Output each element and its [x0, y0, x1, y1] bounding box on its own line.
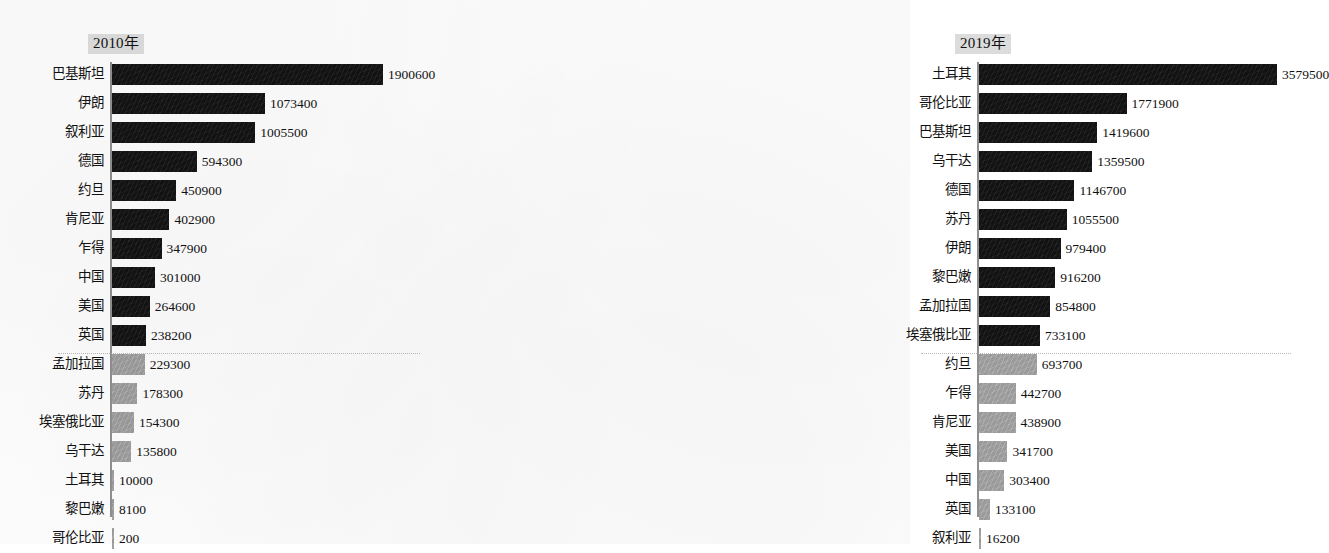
- bar-track: 1073400: [112, 93, 449, 114]
- bar-row: 巴基斯坦1900600: [0, 62, 455, 91]
- bar-row: 德国1146700: [455, 178, 910, 207]
- bar-track: 450900: [112, 180, 449, 201]
- bar-track: 229300: [112, 354, 449, 375]
- bar-row: 苏丹1055500: [455, 207, 910, 236]
- category-label: 土耳其: [0, 468, 104, 497]
- bar-track: 1900600: [112, 64, 449, 85]
- bar-value-label: 178300: [137, 383, 183, 404]
- bar-value-label: 438900: [1016, 412, 1062, 433]
- bar: [979, 499, 990, 520]
- category-label: 中国: [859, 468, 971, 497]
- bar-track: 264600: [112, 296, 449, 317]
- bar-value-label: 1055500: [1067, 209, 1119, 230]
- category-label: 乍得: [0, 236, 104, 265]
- bar-row: 英国133100: [455, 497, 910, 526]
- category-label: 土耳其: [859, 62, 971, 91]
- bar: [112, 354, 145, 375]
- bar-row: 土耳其3579500: [455, 62, 910, 91]
- bar-value-label: 8100: [114, 499, 146, 520]
- bar-rows-right: 土耳其3579500哥伦比亚1771900巴基斯坦1419600乌干达13595…: [455, 62, 910, 553]
- bar-value-label: 301000: [155, 267, 201, 288]
- bar-value-label: 1005500: [255, 122, 307, 143]
- bar-track: 347900: [112, 238, 449, 259]
- bar-row: 约旦450900: [0, 178, 455, 207]
- category-label: 中国: [0, 265, 104, 294]
- bar: [979, 267, 1055, 288]
- bar-value-label: 135800: [131, 441, 177, 462]
- category-label: 哥伦比亚: [859, 91, 971, 120]
- bar-value-label: 450900: [176, 180, 222, 201]
- category-label: 巴基斯坦: [859, 120, 971, 149]
- bar-row: 德国594300: [0, 149, 455, 178]
- category-label: 乍得: [859, 381, 971, 410]
- bar: [979, 238, 1061, 259]
- category-label: 埃塞俄比亚: [859, 323, 971, 352]
- bar-track: 8100: [112, 499, 449, 520]
- group-separator-left: [58, 353, 420, 354]
- category-label: 约旦: [0, 178, 104, 207]
- bar-value-label: 347900: [162, 238, 208, 259]
- category-label: 孟加拉国: [859, 294, 971, 323]
- bar: [979, 209, 1067, 230]
- bar-row: 叙利亚1005500: [0, 120, 455, 149]
- category-label: 孟加拉国: [0, 352, 104, 381]
- bar: [112, 64, 383, 85]
- bar-row: 乌干达1359500: [455, 149, 910, 178]
- bar-track: 10000: [112, 470, 449, 491]
- panel-title-2010: 2010年: [88, 34, 144, 54]
- bar-row: 黎巴嫩916200: [455, 265, 910, 294]
- bar-value-label: 1900600: [383, 64, 435, 85]
- bar-value-label: 229300: [145, 354, 191, 375]
- bar-value-label: 854800: [1050, 296, 1096, 317]
- bar: [112, 441, 131, 462]
- category-label: 黎巴嫩: [859, 265, 971, 294]
- bar-row: 乌干达135800: [0, 439, 455, 468]
- category-label: 伊朗: [0, 91, 104, 120]
- bar-track: 154300: [112, 412, 449, 433]
- bar-row: 哥伦比亚1771900: [455, 91, 910, 120]
- bar: [979, 470, 1004, 491]
- bar-value-label: 1771900: [1127, 93, 1179, 114]
- bar-value-label: 341700: [1007, 441, 1053, 462]
- bar-track: 178300: [112, 383, 449, 404]
- bar: [112, 238, 162, 259]
- bar-value-label: 916200: [1055, 267, 1101, 288]
- category-label: 苏丹: [859, 207, 971, 236]
- bar-row: 埃塞俄比亚154300: [0, 410, 455, 439]
- bar-value-label: 1419600: [1097, 122, 1149, 143]
- category-label: 肯尼亚: [859, 410, 971, 439]
- bar-value-label: 154300: [134, 412, 180, 433]
- bar: [979, 325, 1040, 346]
- category-label: 乌干达: [0, 439, 104, 468]
- bar-row: 苏丹178300: [0, 381, 455, 410]
- group-separator-right: [921, 353, 1291, 354]
- bar-value-label: 16200: [981, 528, 1020, 549]
- bar-row: 中国301000: [0, 265, 455, 294]
- bar-value-label: 200: [114, 528, 139, 549]
- bar-row: 叙利亚16200: [455, 526, 910, 553]
- bar: [979, 296, 1050, 317]
- bar-row: 乍得442700: [455, 381, 910, 410]
- bar-value-label: 10000: [114, 470, 153, 491]
- bar-row: 英国238200: [0, 323, 455, 352]
- bar-row: 巴基斯坦1419600: [455, 120, 910, 149]
- bar-value-label: 979400: [1061, 238, 1107, 259]
- bar: [979, 93, 1127, 114]
- bar-track: 301000: [112, 267, 449, 288]
- category-label: 德国: [0, 149, 104, 178]
- bar-row: 乍得347900: [0, 236, 455, 265]
- category-label: 哥伦比亚: [0, 526, 104, 553]
- bar: [112, 383, 137, 404]
- chart-panel-2019: 2019年 土耳其3579500哥伦比亚1771900巴基斯坦1419600乌干…: [455, 0, 910, 544]
- chart-panel-2010: 2010年 巴基斯坦1900600伊朗1073400叙利亚1005500德国59…: [0, 0, 455, 544]
- category-label: 英国: [859, 497, 971, 526]
- bar: [112, 296, 150, 317]
- bar-track: 594300: [112, 151, 449, 172]
- bar-value-label: 303400: [1004, 470, 1050, 491]
- bar: [979, 180, 1074, 201]
- bar: [112, 93, 265, 114]
- bar: [112, 122, 255, 143]
- category-label: 巴基斯坦: [0, 62, 104, 91]
- bar: [112, 151, 197, 172]
- bar-row: 美国264600: [0, 294, 455, 323]
